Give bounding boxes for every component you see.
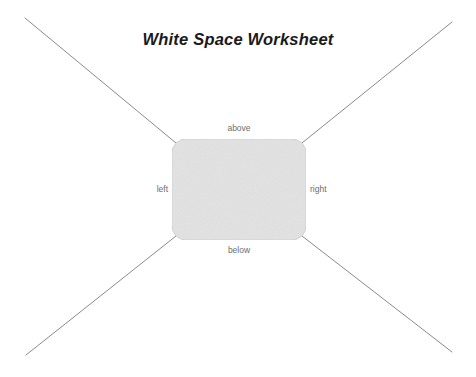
worksheet-page: White Space Worksheet above left right b… — [0, 0, 476, 377]
page-title: White Space Worksheet — [0, 30, 476, 49]
label-right: right — [310, 185, 344, 194]
label-below: below — [172, 246, 306, 255]
bottom-left-diagonal — [26, 236, 176, 355]
bottom-right-diagonal — [302, 236, 452, 352]
label-above: above — [172, 124, 306, 133]
label-left: left — [140, 185, 168, 194]
content-box — [172, 139, 306, 240]
whitespace-diagram — [0, 0, 476, 377]
